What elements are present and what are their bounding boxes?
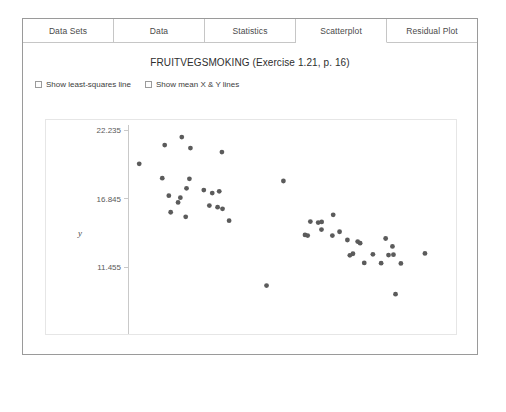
- data-point: [188, 146, 193, 151]
- data-point: [398, 261, 403, 266]
- data-point: [393, 292, 398, 297]
- data-point: [137, 161, 142, 166]
- data-point: [383, 236, 388, 241]
- data-point: [386, 253, 391, 258]
- y-axis-title: y: [77, 228, 82, 238]
- y-tick-label: 11.455: [97, 263, 121, 272]
- data-point: [176, 200, 181, 205]
- data-point: [183, 214, 188, 219]
- tab-strip: Data SetsDataStatisticsScatterplotResidu…: [23, 19, 477, 43]
- data-point: [264, 283, 269, 288]
- data-point: [179, 135, 184, 140]
- data-point: [337, 229, 342, 234]
- data-point: [178, 195, 183, 200]
- tab-label: Data Sets: [49, 26, 87, 36]
- option-least-squares-line[interactable]: Show least-squares line: [35, 80, 131, 89]
- data-point: [207, 203, 212, 208]
- data-point: [345, 238, 350, 243]
- data-point: [319, 227, 324, 232]
- scatterplot-canvas[interactable]: 6.06511.45516.84522.23515.61520.63825.66…: [46, 120, 456, 334]
- tab-data-sets[interactable]: Data Sets: [23, 19, 114, 43]
- data-point: [220, 206, 225, 211]
- option-label: Show mean X & Y lines: [156, 80, 239, 89]
- option-label: Show least-squares line: [46, 80, 131, 89]
- option-mean-xy-lines[interactable]: Show mean X & Y lines: [145, 80, 239, 89]
- chart-title: FRUITVEGSMOKING (Exercise 1.21, p. 16): [23, 57, 477, 68]
- y-tick-label: 16.845: [97, 195, 122, 204]
- data-point: [184, 186, 189, 191]
- tab-label: Scatterplot: [320, 26, 362, 36]
- data-point: [215, 205, 220, 210]
- data-point: [391, 252, 396, 257]
- data-point: [210, 191, 215, 196]
- data-point: [187, 176, 192, 181]
- data-point: [358, 241, 363, 246]
- data-point: [160, 176, 165, 181]
- scatterplot-window: Data SetsDataStatisticsScatterplotResidu…: [22, 18, 478, 355]
- data-point: [347, 253, 352, 258]
- tab-label: Data: [150, 26, 168, 36]
- tab-label: Residual Plot: [406, 26, 457, 36]
- y-tick-label: 22.235: [97, 126, 122, 135]
- tab-scatterplot[interactable]: Scatterplot: [296, 19, 387, 43]
- data-point: [217, 189, 222, 194]
- data-point: [166, 193, 171, 198]
- tab-data[interactable]: Data: [114, 19, 205, 43]
- data-point: [319, 220, 324, 225]
- tab-residual-plot[interactable]: Residual Plot: [387, 19, 477, 43]
- data-point: [168, 210, 173, 215]
- tab-statistics[interactable]: Statistics: [205, 19, 296, 43]
- data-point: [162, 143, 167, 148]
- data-point: [379, 261, 384, 266]
- plot-panel: 6.06511.45516.84522.23515.61520.63825.66…: [45, 119, 457, 335]
- data-point: [201, 188, 206, 193]
- data-point: [281, 179, 286, 184]
- checkbox-icon[interactable]: [35, 81, 42, 88]
- tab-label: Statistics: [232, 26, 267, 36]
- data-point: [370, 252, 375, 257]
- data-point: [303, 233, 308, 238]
- data-point: [220, 150, 225, 155]
- data-point: [390, 244, 395, 249]
- y-tick-label: 6.065: [101, 332, 122, 334]
- options-row: Show least-squares lineShow mean X & Y l…: [35, 80, 477, 89]
- checkbox-icon[interactable]: [145, 81, 152, 88]
- data-point: [331, 212, 336, 217]
- data-point: [227, 218, 232, 223]
- data-point: [330, 233, 335, 238]
- data-point: [308, 219, 313, 224]
- data-point: [423, 251, 428, 256]
- data-point: [362, 261, 367, 266]
